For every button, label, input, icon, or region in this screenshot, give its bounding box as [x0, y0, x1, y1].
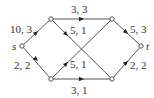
node-c: [49, 77, 53, 81]
node-label-t: t: [146, 40, 150, 52]
edge-label-s-c: 2, 2: [14, 59, 31, 71]
edge-label-b-t: 5, 3: [130, 23, 147, 35]
edge-label-c-d: 3, 1: [71, 84, 88, 96]
flow-network-diagram: s t 10, 3 2, 2 3, 3 3, 1 5, 1 5, 1 5, 3 …: [0, 0, 154, 98]
edge-label-a-b: 3, 3: [71, 3, 88, 15]
node-d: [110, 77, 114, 81]
arrow-icon: [79, 17, 84, 21]
edge-label-c-b: 5, 1: [70, 58, 87, 70]
edge-label-s-a: 10, 3: [10, 23, 33, 35]
node-label-s: s: [12, 40, 16, 52]
arrow-icon: [79, 77, 84, 81]
node-b: [110, 17, 114, 21]
node-s: [20, 44, 24, 48]
edge-label-a-d: 5, 1: [70, 24, 87, 36]
node-t: [139, 44, 143, 48]
node-a: [49, 17, 53, 21]
edge-label-d-t: 2, 2: [130, 59, 147, 71]
